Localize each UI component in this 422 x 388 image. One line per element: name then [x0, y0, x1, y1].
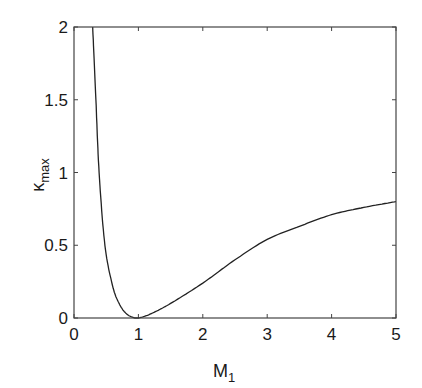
x-tick-label: 1 — [134, 325, 143, 344]
y-tick-label: 0.5 — [44, 236, 68, 255]
y-tick-label: 2 — [59, 18, 68, 37]
plot-frame — [74, 27, 396, 318]
y-tick-label: 1.5 — [44, 91, 68, 110]
x-tick-label: 4 — [327, 325, 336, 344]
y-axis-label: κmax — [28, 158, 52, 192]
kappa-curve — [93, 27, 396, 318]
x-tick-label: 2 — [198, 325, 207, 344]
axis-ticks: 01234500.511.52 — [44, 18, 400, 344]
x-tick-label: 5 — [391, 325, 400, 344]
x-tick-label: 3 — [262, 325, 271, 344]
y-tick-label: 1 — [59, 164, 68, 183]
x-tick-label: 0 — [69, 325, 78, 344]
x-axis-label: M1 — [213, 361, 235, 385]
chart: 01234500.511.52 M1 κmax — [0, 0, 422, 388]
y-tick-label: 0 — [59, 309, 68, 328]
